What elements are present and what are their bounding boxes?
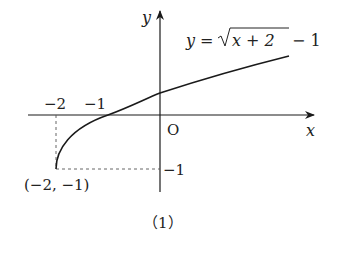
y-axis-label: y — [141, 8, 152, 27]
figure-caption: （1） — [143, 214, 183, 232]
svg-text:x + 2: x + 2 — [232, 31, 275, 50]
tick-label-x-neg1: −1 — [84, 95, 106, 113]
tick-label-x-neg2: −2 — [44, 95, 66, 113]
x-axis-label: x — [306, 121, 315, 140]
function-graph: y x O −2 −1 −1 (−2, −1) y = x + 2 − 1 （1… — [0, 0, 339, 254]
svg-text:y: y — [185, 31, 196, 50]
point-label: (−2, −1) — [24, 176, 89, 194]
svg-text:=: = — [200, 31, 213, 50]
origin-label: O — [167, 121, 179, 139]
tick-label-y-neg1: −1 — [163, 161, 185, 179]
equation-label: y = x + 2 − 1 — [185, 28, 321, 50]
svg-text:− 1: − 1 — [292, 31, 321, 50]
